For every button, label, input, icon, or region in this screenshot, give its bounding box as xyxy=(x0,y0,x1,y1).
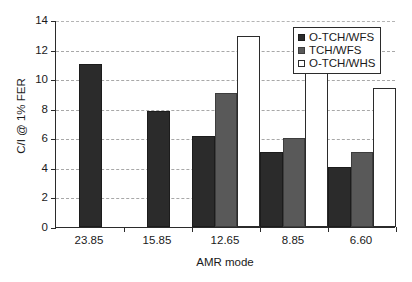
x-tick-mark xyxy=(124,227,125,232)
legend-item-label: TCH/WFS xyxy=(309,45,361,57)
x-axis-title: AMR mode xyxy=(55,256,395,268)
bar xyxy=(237,36,260,227)
bar xyxy=(373,88,396,227)
legend-item: TCH/WFS xyxy=(298,44,375,57)
y-tick-label: 0 xyxy=(22,222,48,234)
y-tick-label: 14 xyxy=(22,15,48,27)
bar xyxy=(283,138,306,227)
y-tick-label: 4 xyxy=(22,163,48,175)
y-tick-mark xyxy=(51,228,56,229)
legend-item-label: O-TCH/WFS xyxy=(309,32,374,44)
bar-group xyxy=(192,21,260,227)
bar xyxy=(192,136,215,227)
legend: O-TCH/WFSTCH/WFSO-TCH/WHS xyxy=(293,27,381,74)
x-tick-mark xyxy=(192,227,193,232)
x-tick-label: 12.65 xyxy=(211,234,240,246)
legend-item-label: O-TCH/WHS xyxy=(309,58,375,70)
legend-swatch-gray xyxy=(298,47,305,54)
bar xyxy=(305,60,328,227)
y-tick-label: 2 xyxy=(22,193,48,205)
x-tick-mark xyxy=(396,227,397,232)
bar xyxy=(328,167,351,227)
bar xyxy=(215,93,238,227)
legend-swatch-white xyxy=(298,60,305,67)
y-tick-label: 8 xyxy=(22,104,48,116)
bar xyxy=(147,111,170,227)
x-tick-label: 15.85 xyxy=(143,234,172,246)
y-tick-label: 12 xyxy=(22,45,48,57)
bar-group xyxy=(56,21,124,227)
legend-swatch-dark xyxy=(298,34,305,41)
y-tick-label: 10 xyxy=(22,74,48,86)
x-tick-label: 8.85 xyxy=(282,234,304,246)
bar-group xyxy=(124,21,192,227)
bar xyxy=(351,152,374,227)
bar-chart: C/I @ 1% FER 02468101214 23.8515.8512.65… xyxy=(0,0,412,282)
x-tick-mark xyxy=(328,227,329,232)
x-tick-mark xyxy=(260,227,261,232)
bar xyxy=(79,64,102,227)
legend-item: O-TCH/WHS xyxy=(298,57,375,70)
legend-item: O-TCH/WFS xyxy=(298,31,375,44)
bar xyxy=(260,152,283,227)
y-tick-label: 6 xyxy=(22,134,48,146)
y-axis-tick-labels: 02468101214 xyxy=(18,0,48,282)
x-tick-label: 6.60 xyxy=(350,234,372,246)
x-tick-label: 23.85 xyxy=(75,234,104,246)
